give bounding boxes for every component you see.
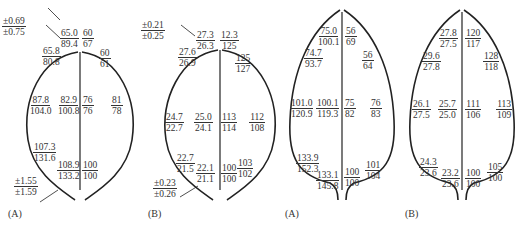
cell: 22.721.5: [176, 153, 195, 174]
cell: 7676: [82, 95, 94, 116]
panel-label: (A): [285, 208, 299, 219]
cell: 27.827.5: [439, 28, 458, 49]
panel-label: (B): [405, 208, 418, 219]
cell: 105100: [487, 162, 503, 183]
cell: 24.722.7: [165, 112, 184, 133]
cell: 125127: [235, 53, 251, 74]
error-bottom: ±0.23±0.26: [153, 178, 177, 199]
cell: 100.1119.3: [316, 98, 339, 119]
cell: 65.089.4: [60, 28, 79, 49]
cell: 113109: [496, 99, 512, 120]
cell: 87.8104.0: [29, 95, 52, 116]
cell: 7582: [344, 98, 356, 119]
cell: 74.793.7: [304, 48, 323, 69]
cell: 100100: [221, 163, 237, 184]
cell: 82.9100.8: [57, 95, 80, 116]
panel-label: (A): [8, 208, 22, 219]
cell: 133.1145.8: [316, 170, 339, 191]
cell: 25.725.0: [438, 99, 457, 120]
cell: 101.0120.9: [290, 98, 313, 119]
cell: 23.223.6: [441, 168, 460, 189]
cell: 12.3125: [220, 30, 239, 51]
error-top: ±0.21±0.25: [141, 20, 165, 41]
cell: 100100: [344, 167, 360, 188]
cell: 112108: [249, 112, 265, 133]
cell: 22.121.1: [196, 163, 215, 184]
cell: 6067: [82, 28, 94, 49]
cell: 25.024.1: [194, 112, 213, 133]
cell: 5669: [345, 26, 357, 47]
cell: 26.127.5: [412, 99, 431, 120]
cell: 100100: [465, 168, 481, 189]
cell: 108.9133.2: [57, 160, 80, 181]
panel-label: (B): [148, 208, 161, 219]
cell: 120117: [465, 28, 481, 49]
cell: 113114: [221, 112, 237, 133]
cell: 65.880.8: [42, 46, 61, 67]
cell: 5664: [362, 50, 374, 71]
cell: 8178: [111, 95, 123, 116]
cell: 100100: [82, 160, 98, 181]
cell: 6061: [99, 48, 111, 69]
error-top: ±0.69±0.75: [2, 16, 26, 37]
cell: 24.323.6: [419, 157, 438, 178]
cell: 75.0100.1: [317, 26, 340, 47]
error-bottom: ±1.55±1.59: [14, 176, 38, 197]
cell: 27.326.3: [196, 30, 215, 51]
cell: 27.626.9: [178, 47, 197, 68]
cell: 29.627.8: [422, 51, 441, 72]
cell: 128118: [483, 51, 499, 72]
cell: 7683: [370, 98, 382, 119]
cell: 101104: [365, 160, 381, 181]
cell: 103102: [237, 158, 253, 179]
cell: 107.3131.6: [33, 142, 56, 163]
cell: 111106: [465, 99, 481, 120]
